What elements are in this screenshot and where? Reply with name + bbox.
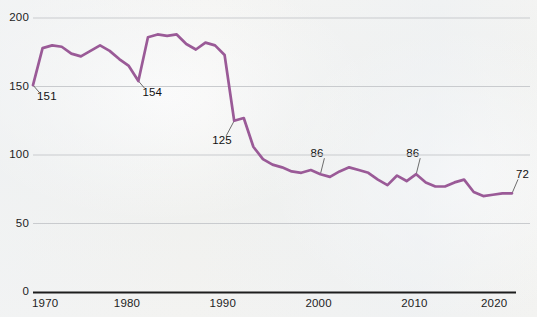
- annotation-leader-line: [226, 121, 234, 136]
- line-chart: [0, 0, 537, 317]
- data-series-line: [33, 34, 512, 196]
- annotation-leader-line: [416, 158, 420, 174]
- annotation-leader-line: [512, 179, 518, 193]
- annotation-leader-line: [320, 158, 324, 174]
- annotation-leader-lines: [33, 81, 518, 193]
